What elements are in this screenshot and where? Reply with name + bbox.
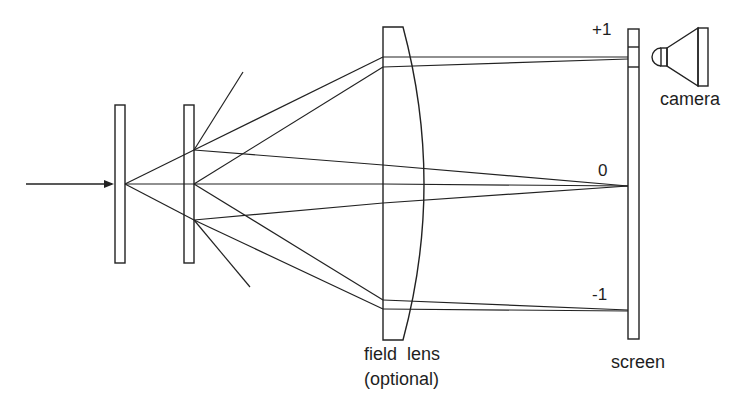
screen [628, 29, 639, 339]
rays-lens-screen [383, 57, 628, 311]
screen-label: screen [611, 352, 665, 372]
order-zero-label: 0 [598, 161, 607, 181]
camera-label: camera [660, 89, 720, 109]
grating-1 [115, 105, 125, 263]
field-lens-optional-label: (optional) [364, 369, 439, 389]
input-beam [26, 180, 114, 188]
camera-icon [652, 28, 708, 86]
field-lens-label: field lens [364, 344, 440, 364]
order-plus1-label: +1 [592, 20, 611, 40]
rays-g2-lens [194, 57, 383, 309]
order-minus1-label: -1 [592, 285, 607, 305]
